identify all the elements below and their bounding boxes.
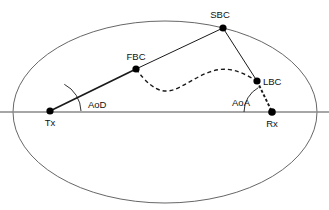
path-sbc-to-lbc — [223, 28, 257, 81]
diagram-svg: AoD AoA Tx FBC SBC LBC Rx — [0, 0, 329, 210]
node-tx — [46, 107, 53, 114]
angle-of-departure-label: AoD — [88, 99, 107, 110]
angle-of-arrival-label: AoA — [232, 97, 251, 108]
node-sbc — [219, 24, 226, 31]
path-fbc-to-lbc-cluster-curve — [136, 69, 257, 91]
node-lbc — [253, 77, 260, 84]
node-label-tx: Tx — [45, 117, 56, 128]
node-label-sbc: SBC — [210, 9, 230, 20]
path-fbc-to-sbc — [136, 28, 223, 69]
node-label-rx: Rx — [266, 118, 278, 129]
diagram-canvas: AoD AoA Tx FBC SBC LBC Rx — [0, 0, 329, 210]
node-fbc — [132, 65, 139, 72]
node-rx — [268, 108, 276, 116]
node-label-lbc: LBC — [263, 76, 282, 87]
node-label-fbc: FBC — [127, 51, 146, 62]
